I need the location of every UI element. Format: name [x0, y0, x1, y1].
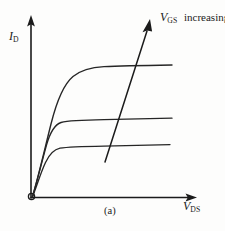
vgs-annotation-subscript: GS	[167, 16, 177, 25]
y-axis-label-subscript: D	[13, 35, 19, 44]
vgs-annotation-symbol-group: VGS	[160, 11, 177, 24]
curve-lowest-vgs	[33, 145, 171, 197]
x-axis-label: VDS	[183, 200, 200, 213]
vgs-increasing-arrowhead	[143, 19, 153, 32]
vgs-increasing-arrow-shaft	[105, 31, 147, 162]
characteristic-curves-plot	[0, 0, 225, 231]
figure-container: ID VDS VGS increasing (a)	[0, 0, 225, 231]
figure-caption: (a)	[104, 206, 116, 217]
curve-highest-vgs	[33, 65, 173, 197]
y-axis-label: ID	[9, 30, 19, 43]
x-axis-label-subscript: DS	[190, 205, 200, 214]
vgs-increasing-text: increasing	[184, 12, 225, 23]
curve-mid-vgs	[33, 118, 173, 196]
